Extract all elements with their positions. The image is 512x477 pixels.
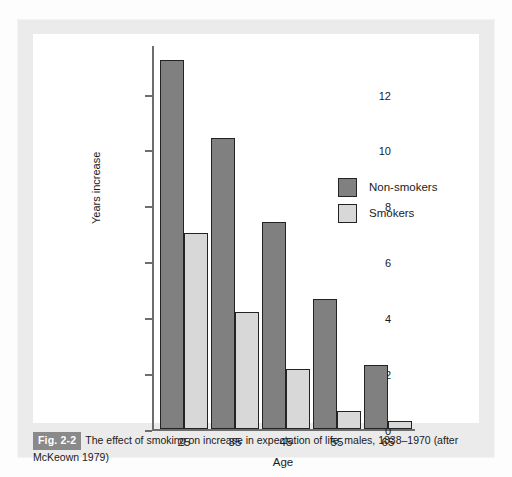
y-axis-tick-label: 12 [351, 90, 391, 101]
bar-non-smokers-45 [262, 222, 286, 429]
figure-caption: Fig. 2-2The effect of smoking on increas… [33, 432, 483, 465]
y-axis-line [152, 46, 154, 431]
legend-label: Non-smokers [369, 181, 437, 193]
bar-smokers-65 [388, 421, 412, 429]
bar-non-smokers-25 [160, 60, 184, 429]
bar-non-smokers-65 [364, 365, 388, 429]
y-axis-tick [145, 374, 152, 376]
y-axis-tick [145, 206, 152, 208]
y-axis-tick-label: 4 [351, 314, 391, 325]
legend-label: Smokers [369, 207, 414, 219]
legend-swatch-icon [338, 178, 357, 197]
y-axis-title: Years increase [90, 152, 102, 224]
bar-smokers-55 [337, 411, 361, 429]
figure-number-badge: Fig. 2-2 [33, 432, 81, 450]
legend-swatch-icon [338, 204, 357, 223]
y-axis-tick-label: 10 [351, 146, 391, 157]
legend-item: Smokers [338, 200, 437, 226]
figure-caption-text: The effect of smoking on increase in exp… [33, 434, 458, 463]
figure-page: 024681012 2535455565 Years increase Age … [0, 0, 512, 477]
y-axis-tick [145, 262, 152, 264]
bar-smokers-45 [286, 369, 310, 429]
y-axis-tick [145, 95, 152, 97]
y-axis-tick [145, 318, 152, 320]
figure-panel: 024681012 2535455565 Years increase Age … [18, 20, 494, 457]
plot-card: 024681012 2535455565 Years increase Age … [33, 34, 479, 423]
bar-smokers-35 [235, 312, 259, 429]
plot-area: 024681012 2535455565 Years increase Age … [152, 46, 403, 431]
legend-item: Non-smokers [338, 174, 437, 200]
bar-smokers-25 [184, 233, 208, 429]
y-axis-tick [145, 150, 152, 152]
bar-non-smokers-35 [211, 138, 235, 429]
bar-non-smokers-55 [313, 299, 337, 429]
y-axis-tick-label: 6 [351, 258, 391, 269]
chart-legend: Non-smokersSmokers [338, 174, 437, 226]
